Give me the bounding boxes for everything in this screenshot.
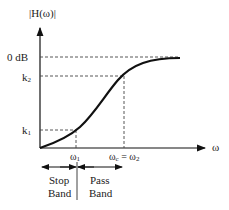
pass-band-label-2: Band [89,187,113,199]
y-axis-label: |H(ω)| [29,7,56,20]
y-tick-0db: 0 dB [7,51,28,63]
x-tick-omega1: ω1 [70,151,81,163]
highpass-response-diagram: |H(ω)| ω 0 dB k2 k1 ω1 ωc = ω2 Stop Band… [0,0,229,210]
pass-band-label-1: Pass [90,174,110,186]
y-tick-k2: k2 [22,71,32,84]
x-axis-label: ω [212,141,219,153]
stop-band-label-1: Stop [49,174,70,186]
x-tick-omegac: ωc = ω2 [109,151,140,163]
magnitude-curve [40,58,180,148]
y-tick-k1: k1 [22,124,32,137]
stop-band-label-2: Band [48,187,72,199]
